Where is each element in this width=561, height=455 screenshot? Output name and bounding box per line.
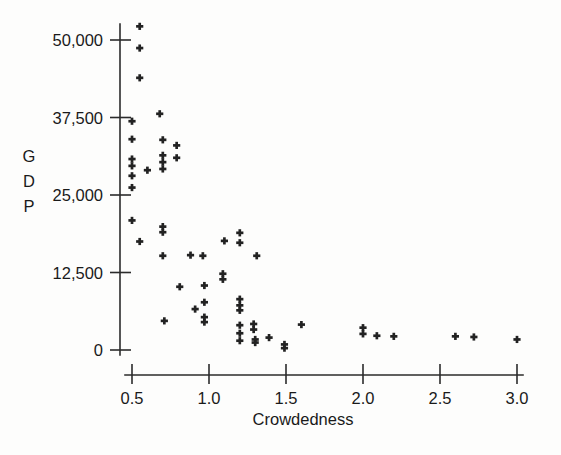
data-point [236,307,243,314]
data-point [236,330,243,337]
y-tick-label-1: 12,500 [53,264,103,282]
data-point [159,229,166,236]
data-point [156,110,163,117]
y-axis-title-char-2: P [23,197,34,215]
data-point [136,238,143,245]
y-axis-tick-labels: 012,50025,00037,50050,000 [53,31,103,359]
data-point [136,23,143,30]
data-point [159,159,166,166]
data-point [236,296,243,303]
y-axis-title: GDP [23,147,36,215]
data-point [192,305,199,312]
data-point [470,333,477,340]
data-point [250,326,257,333]
data-point [187,252,194,259]
data-point [159,165,166,172]
data-point [221,237,228,244]
data-point [173,142,180,149]
y-axis-group: 012,50025,00037,50050,000 [53,24,131,359]
x-tick-label-1: 1.0 [198,389,221,407]
y-tick-label-4: 50,000 [53,31,103,49]
data-point [373,332,380,339]
scatter-plot-figure: 012,50025,00037,50050,000 0.51.01.52.02.… [0,0,561,455]
x-tick-label-4: 2.5 [429,389,452,407]
x-axis-group: 0.51.01.52.02.53.0 [121,364,529,407]
data-point [128,184,135,191]
data-point [128,162,135,169]
data-point [452,333,459,340]
data-point [236,322,243,329]
data-point [173,154,180,161]
y-tick-label-3: 37,500 [53,109,103,127]
data-point [390,333,397,340]
data-point [201,299,208,306]
data-point [201,319,208,326]
data-point [253,252,260,259]
data-point [219,276,226,283]
data-point [136,74,143,81]
data-point [199,252,206,259]
x-axis-tick-labels: 0.51.01.52.02.53.0 [121,389,529,407]
data-point [236,239,243,246]
data-point [159,136,166,143]
data-point [128,172,135,179]
x-tick-label-0: 0.5 [121,389,144,407]
data-point [236,229,243,236]
plot-canvas: 012,50025,00037,50050,000 0.51.01.52.02.… [0,0,561,455]
data-point [159,152,166,159]
data-point [359,330,366,337]
x-axis-ticks [132,364,517,384]
data-point [144,167,151,174]
data-point [298,321,305,328]
x-tick-label-2: 1.5 [275,389,298,407]
data-point [513,336,520,343]
data-point [128,136,135,143]
y-axis-title-char-0: G [23,147,36,165]
data-point [136,44,143,51]
x-tick-label-3: 2.0 [352,389,375,407]
data-point [176,283,183,290]
data-point [359,324,366,331]
data-point [201,282,208,289]
x-tick-label-5: 3.0 [506,389,529,407]
data-point [161,317,168,324]
y-tick-label-0: 0 [94,341,103,359]
x-axis-title: Crowdedness [253,410,354,428]
data-point [128,118,135,125]
y-axis-title-char-1: D [23,172,35,190]
data-point [128,155,135,162]
data-point [236,337,243,344]
data-point [265,334,272,341]
data-point [128,217,135,224]
y-tick-label-2: 25,000 [53,186,103,204]
data-point [159,252,166,259]
data-point-markers [128,23,520,352]
